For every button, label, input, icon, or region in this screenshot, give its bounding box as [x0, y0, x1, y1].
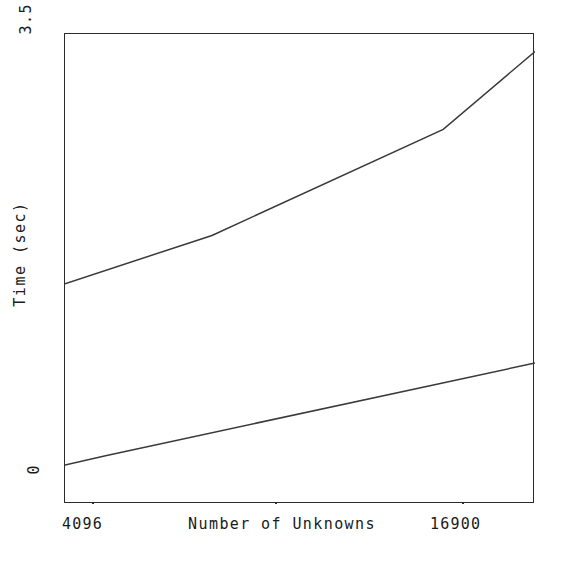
series-canvas: [65, 34, 535, 504]
plot-area: [64, 33, 534, 503]
y-axis-title: Time (sec): [11, 189, 29, 319]
line-series-upper: [65, 51, 535, 283]
x-axis-title: Number of Unknowns: [0, 515, 564, 533]
y-tick-label-min: 0: [25, 464, 43, 520]
y-tick-label-max: 3.5: [17, 3, 35, 59]
line-series-lower: [65, 363, 535, 465]
chart-figure: Time (sec) 3.5 0 4096 16900 Number of Un…: [0, 0, 564, 565]
